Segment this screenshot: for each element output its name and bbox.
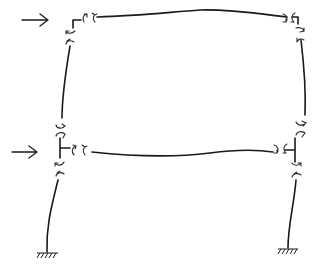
moment-arrow-icon (296, 121, 306, 126)
right-lower-column (288, 180, 296, 248)
frame-diagram (0, 0, 323, 268)
floor-beam (92, 150, 273, 156)
moment-arrow-icon (292, 172, 301, 177)
floor-right-joint (285, 138, 295, 162)
moment-arrow-icon (274, 145, 278, 153)
moment-arrow-icon (283, 14, 287, 22)
moment-arrow-icon (66, 31, 75, 34)
moment-arrow-icon (55, 162, 64, 166)
roof-load-arrow-icon (22, 14, 48, 26)
moment-arrow-icon (66, 39, 74, 44)
left-lower-column (47, 180, 58, 252)
right-upper-column (301, 40, 305, 115)
moment-arrow-icon (56, 124, 65, 128)
moment-arrow-icon (292, 163, 301, 166)
moment-arrow-icon (296, 132, 305, 137)
right-fixed-support-icon (278, 249, 298, 254)
floor-load-arrow-icon (12, 146, 37, 158)
roof-beam (97, 10, 287, 17)
left-upper-column (62, 46, 70, 118)
moment-arrow-icon (72, 145, 76, 155)
frame-diagram-svg (0, 0, 323, 268)
moment-arrow-icon (82, 145, 87, 155)
moment-arrow-icon (83, 14, 87, 22)
moment-arrow-icon (56, 171, 64, 176)
moment-arrow-icon (56, 133, 65, 138)
moment-arrow-icon (296, 28, 304, 32)
left-fixed-support-icon (37, 253, 58, 258)
moment-arrow-icon (92, 13, 97, 22)
roof-left-joint (73, 20, 81, 28)
floor-left-joint (60, 138, 70, 158)
moment-arrow-icon (283, 144, 287, 153)
